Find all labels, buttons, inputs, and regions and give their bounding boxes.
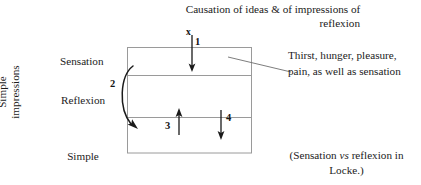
annotation-locke-note-italic: vs xyxy=(340,149,349,161)
arrow-4-down xyxy=(218,110,225,140)
arrow-marker-2: 2 xyxy=(110,78,115,89)
arrow-3-up xyxy=(176,108,183,135)
arrow-marker-4: 4 xyxy=(226,112,231,123)
leader-line-thirst-note xyxy=(228,57,291,72)
diagram-canvas: Causation of ideas & of impressions of r… xyxy=(0,0,421,185)
arrow-marker-3: 3 xyxy=(165,120,170,131)
annotation-locke-note: (Sensation vs reflexion in Locke.) xyxy=(272,148,421,179)
main-box xyxy=(128,48,252,154)
arrow-marker-1: 1 xyxy=(195,36,200,47)
annotation-thirst-note: Thirst, hunger, pleasure, pain, as well … xyxy=(288,48,420,80)
arrow-marker-x: x xyxy=(186,27,191,37)
annotation-locke-note-pre: (Sensation xyxy=(289,149,339,161)
